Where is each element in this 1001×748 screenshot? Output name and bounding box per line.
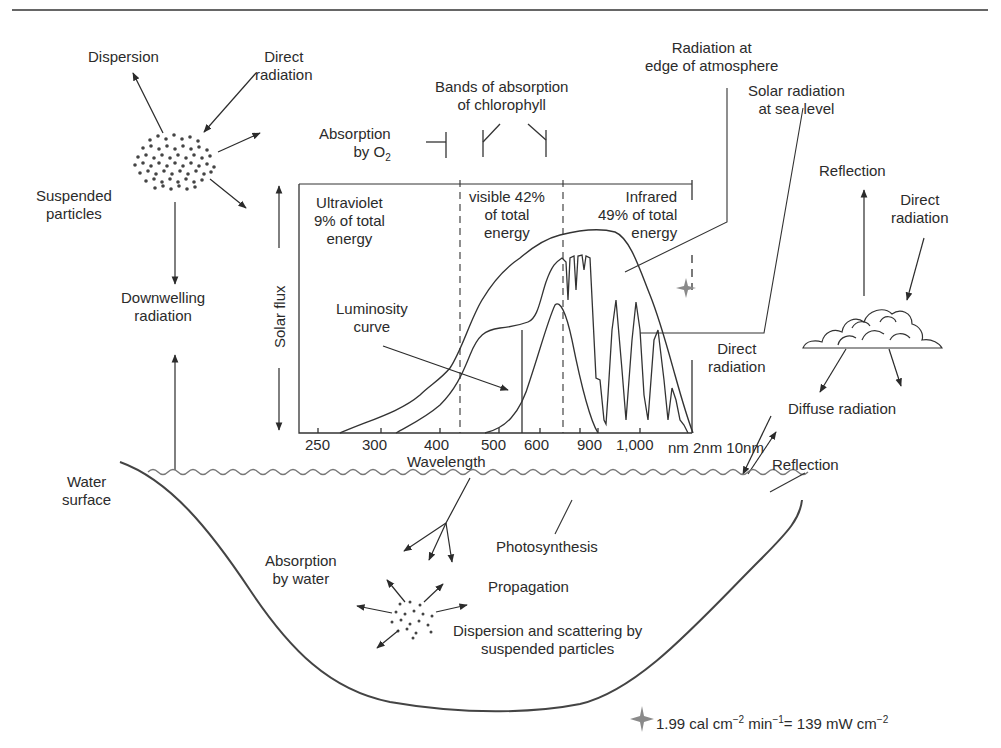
line: energy xyxy=(314,230,385,248)
label-downwelling: Downwelling radiation xyxy=(121,289,205,325)
label-bands-chlorophyll: Bands of absorption of chlorophyll xyxy=(435,78,568,114)
footnote-exp: −1 xyxy=(772,714,783,725)
footnote-exp: −2 xyxy=(877,714,888,725)
line: Solar radiation xyxy=(748,82,845,100)
line: Ultraviolet xyxy=(314,194,385,212)
line: Bands of absorption xyxy=(435,78,568,96)
line: radiation xyxy=(255,66,313,84)
line: edge of atmosphere xyxy=(645,57,778,75)
luminosity-pointer xyxy=(383,346,508,390)
line: curve xyxy=(336,318,408,336)
line: Dispersion and scattering by xyxy=(453,622,642,640)
line: by water xyxy=(265,570,337,588)
direct-radiation-in-arrow xyxy=(204,73,256,132)
line: radiation xyxy=(891,209,949,227)
label-dispersion: Dispersion xyxy=(88,48,159,66)
photosynthesis-leader xyxy=(555,500,572,534)
region-visible-label: visible 42% of total energy xyxy=(469,188,545,242)
scatter-right-arrow xyxy=(218,133,260,152)
x-tick-250: 250 xyxy=(305,437,330,453)
line: Water xyxy=(62,473,111,491)
region-infrared-label: Infrared 49% of total energy xyxy=(598,188,677,242)
label-water-surface: Water surface xyxy=(62,473,111,509)
reflection-surface-leader xyxy=(770,473,805,492)
line: Downwelling xyxy=(121,289,205,307)
label-photosynthesis: Photosynthesis xyxy=(496,538,598,556)
line: Direct xyxy=(255,48,313,66)
footnote-part: = 139 mW cm xyxy=(784,715,877,732)
label-dispersion-scattering: Dispersion and scattering by suspended p… xyxy=(453,622,642,658)
scatter-down-left-arrow xyxy=(377,630,399,648)
subscript: 2 xyxy=(385,152,391,163)
lower-particles-cluster xyxy=(391,601,434,640)
line: radiation xyxy=(708,358,766,376)
line: energy xyxy=(598,224,677,242)
line: Suspended xyxy=(36,187,112,205)
x-axis-label: Wavelength xyxy=(407,453,486,471)
scatter-left-arrow xyxy=(357,606,392,613)
label-solar-sea-level: Solar radiation at sea level xyxy=(748,82,845,118)
line: Absorption xyxy=(319,125,391,143)
scatter-up-right-arrow xyxy=(424,584,443,602)
line: Radiation at xyxy=(645,39,778,57)
label-radiation-edge: Radiation at edge of atmosphere xyxy=(645,39,778,75)
absorption-markers xyxy=(426,124,546,158)
label-diffuse-radiation: Diffuse radiation xyxy=(788,400,896,418)
label-direct-radiation-cloud: Direct radiation xyxy=(891,191,949,227)
y-axis-label: Solar flux xyxy=(271,285,288,348)
label-reflection-water: Reflection xyxy=(772,456,839,474)
dispersion-arrow xyxy=(133,73,163,133)
footnote-conversion: 1.99 cal cm−2 min−1= 139 mW cm−2 xyxy=(656,711,888,733)
footnote-exp: −2 xyxy=(733,714,744,725)
cloud-direct-radiation-arrow xyxy=(907,238,924,300)
line: of total xyxy=(469,206,545,224)
footnote-part: min xyxy=(744,715,772,732)
line: Luminosity xyxy=(336,300,408,318)
luminosity-curve xyxy=(485,304,598,433)
label-luminosity-curve: Luminosity curve Luminosity curve xyxy=(336,300,408,336)
x-tick-400: 400 xyxy=(424,437,449,453)
scatter-down-right-arrow xyxy=(210,179,246,208)
line: 9% of total xyxy=(314,212,385,230)
suspended-particles-cluster xyxy=(133,133,216,191)
line: surface xyxy=(62,491,111,509)
line: Direct xyxy=(708,340,766,358)
line: Absorption xyxy=(265,552,337,570)
diffuse-left-arrow xyxy=(820,349,846,392)
footnote-part: 1.99 cal cm xyxy=(656,715,733,732)
line: particles xyxy=(36,205,112,223)
line: at sea level xyxy=(748,100,845,118)
line: radiation xyxy=(121,307,205,325)
scatter-up-left-arrow xyxy=(387,580,405,602)
star-marker-icon xyxy=(676,278,696,298)
line: of chlorophyll xyxy=(435,96,568,114)
line: Infrared xyxy=(598,188,677,206)
label-direct-radiation-water: Direct radiation xyxy=(708,340,766,376)
line: Direct xyxy=(891,191,949,209)
text: by O xyxy=(353,143,385,160)
diffuse-right-arrow xyxy=(889,349,901,386)
x-tick-units: nm 2nm 10nm xyxy=(668,440,764,456)
propagation-stem xyxy=(446,478,470,523)
edge-atmosphere-leader xyxy=(625,88,727,272)
propagation-arrow-3 xyxy=(446,523,452,562)
line: visible 42% xyxy=(469,188,545,206)
label-reflection-cloud: Reflection xyxy=(819,162,886,180)
region-ultraviolet-label: Ultraviolet 9% of total energy xyxy=(314,194,385,248)
footnote-star-icon xyxy=(630,706,654,732)
x-tick-300: 300 xyxy=(362,437,387,453)
line: 49% of total xyxy=(598,206,677,224)
x-tick-500: 500 xyxy=(481,437,506,453)
x-tick-900: 900 xyxy=(577,437,602,453)
scatter-right-arrow-lower xyxy=(436,605,467,612)
line: suspended particles xyxy=(453,640,642,658)
line: energy xyxy=(469,224,545,242)
label-direct-radiation-top: Direct radiation xyxy=(255,48,313,84)
label-propagation: Propagation xyxy=(488,578,569,596)
label-suspended-particles: Suspended particles xyxy=(36,187,112,223)
x-tick-600: 600 xyxy=(524,437,549,453)
x-tick-1000: 1,000 xyxy=(616,437,654,453)
lake-basin xyxy=(120,462,802,711)
cloud-icon xyxy=(803,310,942,348)
label-absorption-water: Absorption by water xyxy=(265,552,337,588)
